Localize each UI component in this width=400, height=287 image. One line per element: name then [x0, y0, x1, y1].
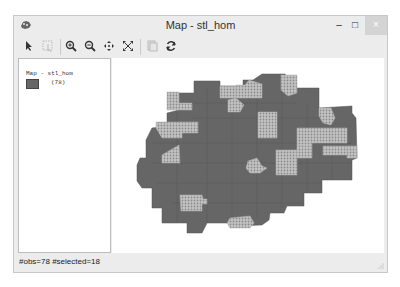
refresh-icon [165, 40, 177, 52]
copy-map-button[interactable] [145, 39, 159, 53]
minimize-button[interactable]: – [332, 16, 346, 35]
toolbar-separator [60, 39, 61, 55]
zoom-in-button[interactable] [64, 39, 78, 53]
legend-count: (78) [51, 79, 65, 86]
pan-button[interactable] [102, 39, 116, 53]
legend-title: Map - stl_hom [26, 70, 73, 77]
full-extent-button[interactable] [121, 39, 135, 53]
legend-swatch[interactable] [26, 79, 39, 89]
legend-panel[interactable]: Map - stl_hom (78) [18, 58, 111, 253]
refresh-button[interactable] [164, 39, 178, 53]
resize-grip-icon[interactable] [378, 263, 384, 269]
select-region-icon [42, 40, 54, 52]
map-canvas[interactable] [112, 58, 384, 253]
map-window: Map - stl_hom – □ × Map [13, 15, 388, 273]
status-text: #obs=78 #selected=18 [19, 257, 100, 266]
close-button[interactable]: × [365, 16, 387, 35]
pointer-icon [24, 40, 34, 52]
toolbar-separator [140, 39, 141, 55]
select-region-button[interactable] [41, 39, 55, 53]
zoom-out-button[interactable] [83, 39, 97, 53]
zoom-in-icon [65, 40, 77, 52]
maximize-button[interactable]: □ [348, 16, 362, 35]
select-tool-button[interactable] [22, 39, 36, 53]
toolbar [14, 36, 387, 58]
pan-icon [103, 40, 115, 52]
choropleth-map [112, 58, 384, 253]
status-bar: #obs=78 #selected=18 [14, 254, 387, 272]
title-bar[interactable]: Map - stl_hom – □ × [14, 16, 387, 36]
full-extent-icon [122, 40, 134, 52]
zoom-out-icon [84, 40, 96, 52]
copy-icon [146, 40, 158, 52]
